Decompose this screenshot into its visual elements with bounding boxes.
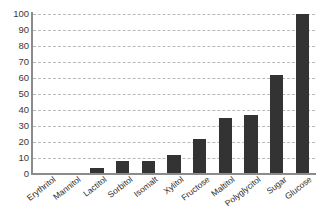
y-axis-tick-label: 100 bbox=[2, 9, 29, 19]
y-axis-tick-label: 90 bbox=[2, 25, 29, 35]
x-axis-tick-labels: ErythritolMannitolLactitolSorbitolIsomal… bbox=[33, 175, 315, 222]
y-axis-tick-label: 30 bbox=[2, 121, 29, 131]
y-axis-tick-labels: 1009080706050403020100 bbox=[0, 14, 29, 174]
bar bbox=[193, 139, 206, 174]
x-axis-tick-label: Glucose bbox=[284, 175, 314, 201]
x-axis-tick-label: Lactitol bbox=[82, 175, 108, 198]
x-axis-tick-label: Erythritol bbox=[25, 175, 57, 202]
y-axis-tick-label: 40 bbox=[2, 105, 29, 115]
y-axis-tick-label: 50 bbox=[2, 89, 29, 99]
plot-area bbox=[33, 14, 315, 174]
bar bbox=[244, 115, 257, 174]
bar-series bbox=[33, 14, 315, 174]
x-axis-tick-label: Isomalt bbox=[133, 175, 160, 199]
bar bbox=[296, 14, 309, 174]
bar bbox=[219, 118, 232, 174]
y-axis-tick-label: 60 bbox=[2, 73, 29, 83]
bar bbox=[167, 155, 180, 174]
bar-chart: 1009080706050403020100 ErythritolMannito… bbox=[0, 0, 322, 222]
bar bbox=[270, 75, 283, 174]
x-axis-tick-label: Mannitol bbox=[52, 175, 83, 201]
y-axis-tick-label: 70 bbox=[2, 57, 29, 67]
y-axis-tick-label: 10 bbox=[2, 153, 29, 163]
y-axis-tick-label: 80 bbox=[2, 41, 29, 51]
y-axis-tick-label: 0 bbox=[2, 169, 29, 179]
x-axis-tick-label: Sorbitol bbox=[106, 175, 134, 199]
y-axis-tick-label: 20 bbox=[2, 137, 29, 147]
y-axis-line bbox=[31, 12, 33, 175]
